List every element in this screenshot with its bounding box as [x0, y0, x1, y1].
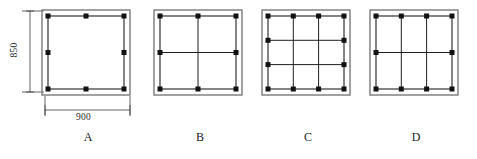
rebar-tie-top-b: [196, 14, 201, 19]
cross-section-a: [40, 8, 135, 104]
rebar-tie-right-d: [450, 50, 455, 55]
rebar-mid-right-a: [122, 50, 127, 55]
rebar-tie-top-1-c: [291, 14, 296, 19]
rebar-corner-tr-d: [450, 14, 455, 19]
rebar-tie-top-2-d: [424, 14, 429, 19]
perimeter-stirrup-a: [48, 16, 124, 89]
caption-b: B: [180, 130, 220, 144]
rebar-tie-left-2-c: [266, 62, 271, 67]
cross-section-d-drawing: [368, 8, 463, 100]
rebar-corner-tl-c: [266, 14, 271, 19]
rebar-tie-right-2-c: [342, 62, 347, 67]
rebar-tie-bottom-1-c: [291, 87, 296, 92]
rebar-tie-bottom-2-c: [316, 87, 321, 92]
rebar-corner-br-a: [122, 87, 127, 92]
rebar-corner-tl-d: [374, 14, 379, 19]
caption-d: D: [396, 130, 436, 144]
rebar-corner-tr-a: [122, 14, 127, 19]
cross-section-c-drawing: [260, 8, 355, 100]
rebar-corner-tr-b: [234, 14, 239, 19]
rebar-group-a: [46, 14, 127, 92]
rebar-corner-tl-a: [46, 14, 51, 19]
rebar-tie-left-1-c: [266, 38, 271, 43]
rebar-mid-left-a: [46, 50, 51, 55]
rebar-tie-right-b: [234, 50, 239, 55]
rebar-corner-br-d: [450, 87, 455, 92]
cross-section-a-drawing: [40, 8, 135, 100]
rebar-corner-tr-c: [342, 14, 347, 19]
rebar-tie-bottom-1-d: [399, 87, 404, 92]
width-dimension-label: 900: [76, 112, 91, 122]
rebar-tie-top-2-c: [316, 14, 321, 19]
cross-section-b-drawing: [152, 8, 247, 100]
rebar-mid-top-a: [84, 14, 89, 19]
concrete-outline-a: [42, 10, 130, 95]
rebar-corner-bl-b: [158, 87, 163, 92]
rebar-corner-bl-c: [266, 87, 271, 92]
diagram-canvas: 850 900 A: [0, 0, 477, 159]
rebar-corner-bl-a: [46, 87, 51, 92]
cross-section-c: [260, 8, 355, 104]
rebar-tie-right-1-c: [342, 38, 347, 43]
rebar-corner-bl-d: [374, 87, 379, 92]
rebar-tie-bottom-2-d: [424, 87, 429, 92]
rebar-corner-tl-b: [158, 14, 163, 19]
caption-c: C: [288, 130, 328, 144]
rebar-corner-br-b: [234, 87, 239, 92]
rebar-tie-left-d: [374, 50, 379, 55]
rebar-tie-left-b: [158, 50, 163, 55]
rebar-group-c: [266, 14, 347, 92]
caption-a: A: [68, 130, 108, 144]
height-dimension-label: 850: [9, 42, 19, 57]
perimeter-stirrup-c: [268, 16, 344, 89]
rebar-tie-top-1-d: [399, 14, 404, 19]
cross-section-b: [152, 8, 247, 104]
rebar-mid-bottom-a: [84, 87, 89, 92]
rebar-corner-br-c: [342, 87, 347, 92]
concrete-outline-c: [262, 10, 350, 95]
rebar-tie-bottom-b: [196, 87, 201, 92]
cross-section-d: [368, 8, 463, 104]
